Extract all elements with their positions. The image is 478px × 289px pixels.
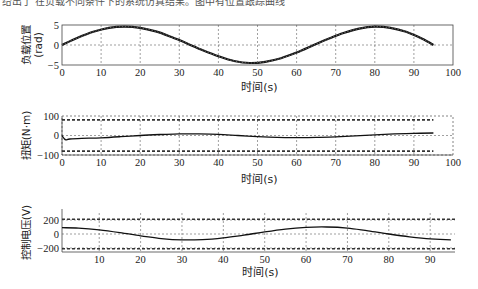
figure: 0102030405060708090100−505时间(s)负载位置(rad)… <box>0 0 478 289</box>
y-axis-label: 控制电压(V) <box>20 205 32 260</box>
x-tick-label: 80 <box>370 67 381 78</box>
x-tick-label: 90 <box>409 157 420 168</box>
grid <box>62 25 453 65</box>
x-tick-label: 90 <box>425 254 436 265</box>
x-tick-label: 40 <box>218 254 229 265</box>
x-tick-label: 0 <box>59 67 64 78</box>
chart-panel-2: 0102030405060708090100−1000100时间(s)扭矩(N·… <box>20 111 461 187</box>
y-axis-label: 负载位置 <box>20 25 32 65</box>
x-tick-label: 70 <box>342 254 353 265</box>
x-tick-label: 100 <box>445 157 461 168</box>
y-tick-label: 200 <box>43 215 59 226</box>
x-axis-label: 时间(s) <box>241 81 277 94</box>
x-axis-label: 时间(s) <box>241 173 277 186</box>
chart-panel-1: 0102030405060708090100−505时间(s)负载位置(rad) <box>20 20 461 95</box>
x-tick-label: 60 <box>291 157 302 168</box>
x-tick-label: 40 <box>213 67 224 78</box>
x-tick-label: 10 <box>96 157 107 168</box>
x-tick-label: 20 <box>135 67 146 78</box>
data-line <box>62 133 433 140</box>
data-line <box>62 227 451 240</box>
chart-panel-3: 102030405060708090−2000200时间(s)控制电压(V) <box>20 205 455 279</box>
y-tick-label: 100 <box>43 111 59 122</box>
x-tick-label: 0 <box>59 157 64 168</box>
x-tick-label: 60 <box>291 67 302 78</box>
x-tick-label: 100 <box>445 67 461 78</box>
y-tick-label: 0 <box>54 130 59 141</box>
x-tick-label: 50 <box>252 67 263 78</box>
x-tick-label: 10 <box>96 67 107 78</box>
x-tick-label: 20 <box>135 157 146 168</box>
y-tick-label: 5 <box>54 20 59 31</box>
x-tick-label: 90 <box>409 67 420 78</box>
x-tick-label: 80 <box>370 157 381 168</box>
y-tick-label: −100 <box>37 150 59 161</box>
grid <box>62 116 453 155</box>
x-tick-label: 70 <box>330 157 341 168</box>
x-tick-label: 70 <box>330 67 341 78</box>
y-tick-label: 0 <box>54 40 59 51</box>
x-tick-label: 30 <box>174 67 185 78</box>
x-axis-label: 时间(s) <box>242 266 278 279</box>
y-tick-label: −200 <box>37 243 59 254</box>
x-tick-label: 50 <box>252 157 263 168</box>
x-tick-label: 80 <box>384 254 395 265</box>
x-tick-label: 50 <box>259 254 270 265</box>
y-tick-label: −5 <box>48 60 59 71</box>
x-tick-label: 40 <box>213 157 224 168</box>
x-tick-label: 20 <box>135 254 146 265</box>
y-axis-label: 扭矩(N·m) <box>20 111 32 161</box>
x-tick-label: 30 <box>177 254 188 265</box>
x-tick-label: 30 <box>174 157 185 168</box>
y-tick-label: 0 <box>54 229 59 240</box>
x-tick-label: 10 <box>94 254 105 265</box>
y-axis-unit: (rad) <box>32 32 44 58</box>
x-tick-label: 60 <box>301 254 312 265</box>
